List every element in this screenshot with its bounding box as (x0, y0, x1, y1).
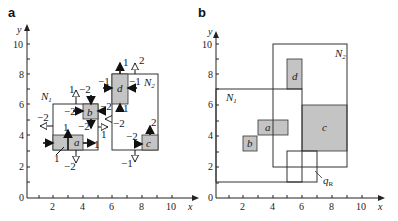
force-label: −1 (98, 75, 110, 87)
y-axis-arrow-icon (24, 24, 30, 31)
region-n2-label: N2 (143, 76, 155, 90)
y-tick: 6 (19, 99, 24, 110)
force-label: 1 (69, 83, 75, 95)
y-axis-label: y (16, 24, 22, 35)
cell-a-label: a (74, 136, 80, 148)
force-label: 2 (151, 116, 157, 128)
y-tick: 2 (19, 161, 24, 172)
cell-c-label: c (146, 137, 151, 149)
x-tick: 4 (270, 201, 275, 212)
cell-d-label: d (292, 70, 298, 82)
force-label: 1 (123, 102, 129, 114)
x-tick: 8 (329, 201, 334, 212)
cell-b-label: b (247, 137, 253, 149)
force-label: −2 (78, 120, 90, 132)
force-label: −2 (126, 130, 138, 142)
panel-a: a 2 4 6 8 10 x 0 2 4 6 8 (8, 5, 199, 212)
force-label: −2 (100, 100, 112, 112)
panel-label-a: a (8, 5, 16, 20)
x-axis-arrow-icon (192, 195, 199, 201)
y-axis-arrow-icon (213, 31, 219, 38)
force-label: 2 (139, 54, 145, 66)
axes-b (213, 31, 385, 201)
y-tick: 4 (208, 130, 213, 141)
force-label: −2 (64, 105, 76, 117)
y-tick: 10 (13, 39, 23, 50)
x-tick: 2 (50, 201, 55, 212)
force-label: −2 (79, 83, 91, 95)
force-label: −2 (113, 117, 125, 129)
x-axis-label: x (377, 201, 383, 212)
force-label: −2 (64, 160, 76, 172)
y-tick: 10 (202, 39, 212, 50)
y-tick: 4 (19, 130, 24, 141)
x-tick: 6 (299, 201, 304, 212)
force-label: −1 (121, 157, 133, 169)
pointer-line (315, 171, 322, 178)
force-label: 1 (101, 128, 107, 140)
panel-b: b 2 4 6 8 10 x 0 2 4 6 8 10 y (198, 5, 385, 212)
force-label: 1 (94, 138, 100, 150)
y-tick: 6 (208, 99, 213, 110)
cell-c-label: c (322, 121, 327, 133)
y-tick: 0 (208, 192, 213, 203)
y-tick: 0 (19, 192, 24, 203)
cell-b-label: b (87, 106, 93, 118)
cell-d-label: d (117, 82, 123, 94)
y-tick: 8 (208, 69, 213, 80)
y-tick: 8 (19, 69, 24, 80)
x-axis-label: x (187, 201, 193, 212)
region-qr-label: qR (323, 174, 334, 188)
x-tick: 4 (80, 201, 85, 212)
x-tick: 10 (166, 201, 176, 212)
panel-label-b: b (198, 5, 206, 20)
region-n1-label: N1 (40, 90, 52, 104)
region-n2-label: N2 (334, 47, 346, 61)
y-axis-label: y (207, 26, 213, 37)
force-label: −2 (37, 111, 49, 123)
y-tick: 2 (208, 161, 213, 172)
force-label: 1 (123, 56, 129, 68)
x-tick: 6 (109, 201, 114, 212)
figure: a 2 4 6 8 10 x 0 2 4 6 8 (0, 0, 398, 221)
x-tick: 2 (240, 201, 245, 212)
cell-a-label: a (265, 121, 271, 133)
force-label: 1 (54, 152, 60, 164)
x-tick: 10 (356, 201, 366, 212)
force-label: −1 (129, 75, 141, 87)
x-tick: 8 (139, 201, 144, 212)
force-label: 1 (63, 121, 69, 133)
region-n1-label: N1 (225, 91, 237, 105)
